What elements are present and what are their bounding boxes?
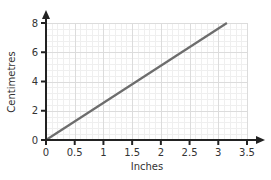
y-axis-title: Centimetres — [6, 51, 17, 112]
grid-minor — [46, 23, 248, 141]
x-tick-label: 2.5 — [182, 147, 198, 158]
y-axis-arrow-icon — [42, 10, 50, 19]
x-tick-label: 1.5 — [124, 147, 140, 158]
x-axis-title: Inches — [131, 161, 164, 172]
x-ticks: 00.511.522.533.5 — [43, 140, 255, 158]
y-tick-label: 0 — [32, 135, 38, 146]
x-tick-label: 2 — [158, 147, 164, 158]
x-tick-label: 0 — [43, 147, 49, 158]
x-tick-label: 3.5 — [239, 147, 255, 158]
y-tick-label: 4 — [32, 76, 38, 87]
x-tick-label: 0.5 — [67, 147, 83, 158]
x-tick-label: 1 — [100, 147, 106, 158]
y-tick-label: 6 — [32, 47, 38, 58]
x-axis-arrow-icon — [256, 136, 265, 144]
y-tick-label: 2 — [32, 105, 38, 116]
x-tick-label: 3 — [215, 147, 221, 158]
y-tick-label: 8 — [32, 18, 38, 29]
conversion-chart: 00.511.522.533.5 02468 Inches Centimetre… — [0, 0, 271, 180]
y-ticks: 02468 — [32, 18, 46, 146]
